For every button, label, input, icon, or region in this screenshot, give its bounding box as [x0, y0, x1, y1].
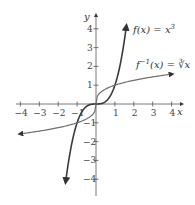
x-tick-label: 4 — [170, 108, 176, 118]
y-axis-label: y — [83, 11, 90, 22]
function-plot: −4−3−2−112344321−1−2−3−4 x y f(x) = x3 f… — [0, 0, 195, 205]
y-tick-label: 2 — [87, 61, 93, 71]
x-tick-label: 1 — [113, 108, 119, 118]
x-axis-label: x — [177, 106, 183, 117]
x-tick-label: −3 — [33, 108, 47, 118]
x-tick-label: 2 — [132, 108, 138, 118]
y-tick-label: 4 — [87, 24, 93, 34]
y-tick-label: −3 — [83, 155, 97, 165]
finv-label: f−1(x) = ∛x — [135, 58, 191, 70]
x-tick-label: 3 — [151, 108, 157, 118]
x-tick-label: −4 — [14, 108, 28, 118]
y-tick-label: 1 — [87, 80, 93, 90]
y-tick-label: 3 — [87, 43, 93, 53]
x-tick-label: −2 — [52, 108, 65, 118]
x-tick-label: −1 — [71, 108, 84, 118]
f-label: f(x) = x3 — [132, 23, 176, 35]
y-tick-label: −4 — [83, 174, 97, 184]
y-tick-label: −2 — [83, 137, 96, 147]
